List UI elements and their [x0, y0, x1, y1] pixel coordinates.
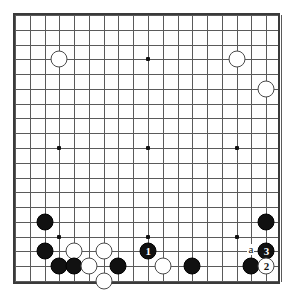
- go-board[interactable]: 132 a: [13, 13, 280, 284]
- point-label-a[interactable]: a: [247, 244, 254, 255]
- point-labels-layer: a: [15, 15, 278, 282]
- go-diagram: 132 a: [0, 0, 293, 306]
- grid-line-vertical: [281, 15, 282, 282]
